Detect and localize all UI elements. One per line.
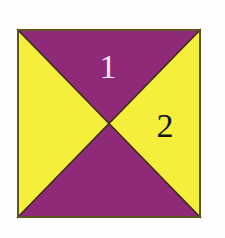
region-label-1: 1 <box>100 48 117 85</box>
figure-canvas: 1 2 <box>0 0 225 238</box>
square-diagram: 1 2 <box>0 0 225 238</box>
region-label-2: 2 <box>157 107 174 144</box>
